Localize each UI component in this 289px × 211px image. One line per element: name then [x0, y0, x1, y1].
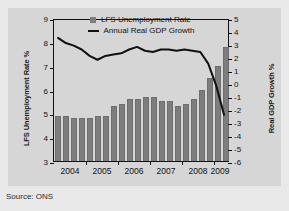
line-swatch-icon: [88, 30, 99, 32]
bar-2004-q2: [63, 116, 69, 161]
x-ticklabel-2008: 2008: [189, 167, 208, 176]
y-tick-right--6: [228, 163, 232, 164]
legend-item-unemployment: LFS Unemployment Rate: [90, 14, 195, 25]
y-tick-left-5: [50, 115, 54, 116]
y-tick-right--2: [228, 111, 232, 112]
x-ticklabel-2009: 2009: [211, 167, 230, 176]
y-ticklabel-left-7: 7: [44, 64, 48, 72]
x-ticklabel-2006: 2006: [125, 167, 144, 176]
bar-2007-q2: [159, 101, 165, 161]
bar-2006-q2: [127, 99, 133, 161]
x-ticklabel-2005: 2005: [93, 167, 112, 176]
y-ticklabel-right-0: 0: [234, 81, 238, 89]
bar-2007-q4: [175, 106, 181, 161]
chart-legend: LFS Unemployment Rate Annual Real GDP Gr…: [90, 14, 195, 36]
square-swatch-icon: [90, 17, 96, 23]
y-tick-right-4: [228, 33, 232, 34]
bar-2008-q2: [191, 99, 197, 161]
x-tick-2009: [214, 161, 215, 165]
plot-area: 3456789 -6-5-4-3-2-1012345 2004200520062…: [53, 19, 229, 162]
y-ticklabel-right--5: -5: [234, 146, 241, 154]
x-tick-2005: [86, 161, 87, 165]
x-tick-2008: [182, 161, 183, 165]
bar-2007-q3: [167, 101, 173, 161]
y-ticklabel-right-1: 1: [234, 68, 238, 76]
y-tick-left-9: [50, 20, 54, 21]
chart-figure: LFS Unemployment Rate % Real GDP Growth …: [0, 0, 289, 211]
y-tick-left-7: [50, 68, 54, 69]
x-tick-2007: [150, 161, 151, 165]
clipped-caption-remnant: [16, 0, 216, 5]
source-note: Source: ONS: [6, 192, 53, 201]
y-ticklabel-right--4: -4: [234, 133, 241, 141]
x-tick-2006: [118, 161, 119, 165]
y-tick-right--4: [228, 137, 232, 138]
y-ticklabel-right-2: 2: [234, 55, 238, 63]
x-ticklabel-2004: 2004: [61, 167, 80, 176]
y-ticklabel-right-3: 3: [234, 42, 238, 50]
y-tick-right-5: [228, 20, 232, 21]
bar-2005-q3: [103, 116, 109, 161]
y-ticklabel-left-4: 4: [44, 135, 48, 143]
y-tick-right--3: [228, 124, 232, 125]
y-ticklabel-left-3: 3: [44, 159, 48, 167]
legend-item-gdp: Annual Real GDP Growth: [90, 25, 195, 36]
bar-2005-q4: [111, 106, 117, 161]
bar-2008-q4: [207, 78, 213, 161]
y-axis-title-right: Real GDP Growth %: [267, 34, 276, 164]
y-tick-left-6: [50, 92, 54, 93]
y-ticklabel-left-8: 8: [44, 40, 48, 48]
y-ticklabel-right--1: -1: [234, 94, 241, 102]
legend-label-unemployment: LFS Unemployment Rate: [101, 14, 191, 25]
bar-2006-q1: [119, 104, 125, 161]
y-ticklabel-right--2: -2: [234, 107, 241, 115]
y-tick-right--1: [228, 98, 232, 99]
y-axis-title-left: LFS Unemployment Rate %: [22, 34, 31, 164]
y-tick-left-3: [50, 163, 54, 164]
y-ticklabel-right--3: -3: [234, 120, 241, 128]
bar-2008-q3: [199, 90, 205, 162]
y-ticklabel-left-5: 5: [44, 111, 48, 119]
bar-2008-q1: [183, 104, 189, 161]
bar-2007-q1: [151, 97, 157, 161]
y-tick-right--5: [228, 150, 232, 151]
y-tick-left-4: [50, 139, 54, 140]
y-tick-right-3: [228, 46, 232, 47]
y-tick-left-8: [50, 44, 54, 45]
bar-2006-q3: [135, 99, 141, 161]
y-tick-right-2: [228, 59, 232, 60]
y-ticklabel-right-4: 4: [234, 29, 238, 37]
y-ticklabel-right--6: -6: [234, 159, 241, 167]
bar-2005-q2: [95, 116, 101, 161]
y-ticklabel-left-9: 9: [44, 16, 48, 24]
bar-2009-q1: [215, 66, 221, 161]
y-ticklabel-right-5: 5: [234, 16, 238, 24]
y-tick-right-0: [228, 85, 232, 86]
x-ticklabel-2007: 2007: [157, 167, 176, 176]
bar-2009-q2: [223, 47, 229, 161]
bar-2004-q3: [71, 118, 77, 161]
legend-label-gdp: Annual Real GDP Growth: [104, 25, 195, 36]
y-tick-right-1: [228, 72, 232, 73]
y-ticklabel-left-6: 6: [44, 88, 48, 96]
bar-2006-q4: [143, 97, 149, 161]
bar-2004-q1: [55, 116, 61, 161]
bar-2004-q4: [79, 118, 85, 161]
chart-plot-frame: LFS Unemployment Rate % Real GDP Growth …: [8, 8, 281, 186]
bar-2005-q1: [87, 118, 93, 161]
